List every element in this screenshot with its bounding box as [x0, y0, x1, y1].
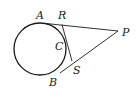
- label-a: A: [35, 9, 44, 22]
- label-c: C: [55, 40, 64, 53]
- label-r: R: [57, 9, 66, 22]
- label-s: S: [73, 64, 81, 77]
- tangent-line-bp: [60, 31, 118, 73]
- label-p: P: [121, 26, 130, 39]
- tangent-segment-rs: [62, 25, 72, 62]
- geometry-diagram: A R P C S B: [0, 0, 138, 89]
- label-b: B: [48, 76, 57, 89]
